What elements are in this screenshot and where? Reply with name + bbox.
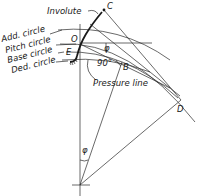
point-C-marker [103,9,106,12]
label-phi-bottom: φ [82,145,88,155]
label-point-C: C [107,1,113,11]
add-circle-leader [50,30,62,34]
label-90-degrees: 90° [97,58,112,68]
label-point-B: B [123,62,129,72]
label-phi-top: φ [104,43,110,53]
pressure-line-leader [87,60,96,80]
diagram-canvas: Involute C Add. circle Pitch circle Base… [0,0,203,196]
label-point-O: O [71,34,78,44]
involute-curve [77,12,102,56]
phi-bottom-arc [80,160,88,161]
label-point-E: E [66,47,72,57]
gear-diagram: Involute C Add. circle Pitch circle Base… [0,0,203,196]
pitch-circle-leader [56,44,76,45]
involute-arrow [88,10,98,14]
label-pressure-line: Pressure line [93,78,148,88]
base-circle-leader [58,52,64,53]
label-involute: Involute [47,6,81,16]
ded-circle-leader [56,61,68,62]
radius-to-D [80,100,181,185]
label-point-D: D [177,104,184,114]
base-circle [66,52,178,98]
